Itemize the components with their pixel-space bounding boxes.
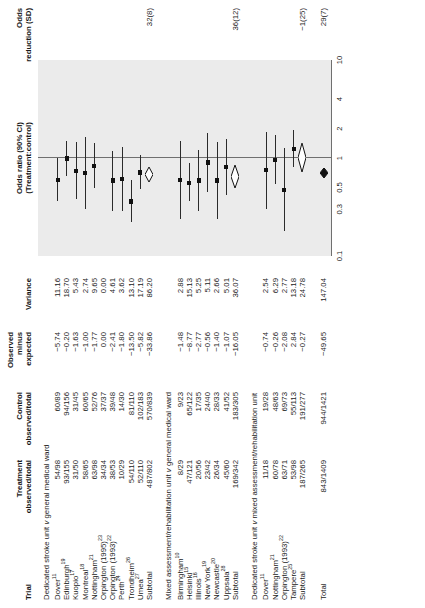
group-heading: Dedicated stroke unit v mixed assessment… — [250, 393, 259, 600]
variance-value: 2.66 — [212, 278, 221, 608]
point-estimate-box — [292, 147, 296, 151]
point-estimate-box — [273, 158, 277, 162]
group-heading: Dedicated stroke unit v general medical … — [42, 444, 51, 600]
variance-value: 4.61 — [108, 278, 117, 608]
variance-value: 17.19 — [136, 278, 145, 608]
point-estimate-box — [92, 164, 96, 168]
plot-panel — [38, 60, 332, 256]
axis-tick-label: 0.3 — [335, 200, 344, 218]
null-line — [38, 157, 332, 158]
variance-value: 13.18 — [289, 278, 298, 608]
point-estimate-box — [129, 199, 133, 203]
point-estimate-box — [282, 188, 286, 192]
point-estimate-box — [197, 178, 201, 182]
axis-tick-label: 1 — [335, 149, 344, 167]
axis-tick-label: 2 — [335, 120, 344, 138]
point-estimate-box — [74, 169, 78, 173]
variance-value: 18.70 — [62, 278, 71, 608]
column-header-odds-reduction: Odds — [15, 8, 24, 608]
column-header-observed-minus-expected: Observed — [6, 332, 15, 608]
variance-value: 2.77 — [280, 278, 289, 608]
point-estimate-box — [224, 165, 228, 169]
summary-diamond — [231, 165, 239, 188]
variance-value: 9.65 — [90, 278, 99, 608]
point-estimate-box — [264, 168, 268, 172]
summary-diamond — [298, 143, 306, 172]
axis-tick-label: 0.5 — [335, 179, 344, 197]
point-estimate-box — [178, 178, 182, 182]
variance-value: 13.10 — [127, 278, 136, 608]
plot-baseline — [331, 60, 332, 256]
point-estimate-box — [120, 177, 124, 181]
summary-diamond — [145, 167, 153, 182]
variance-value: 6.29 — [271, 278, 280, 608]
point-estimate-box — [65, 156, 69, 160]
variance-value: 5.43 — [71, 278, 80, 608]
variance-value: 5.01 — [222, 278, 231, 608]
point-estimate-box — [111, 178, 115, 182]
rotated-figure-wrapper: TrialTreatmentobserved/totalControlobser… — [0, 0, 425, 608]
variance-value: 5.25 — [194, 278, 203, 608]
axis-tick-label: 10 — [335, 51, 344, 69]
axis-tick-label: 4 — [335, 90, 344, 108]
point-estimate-box — [215, 178, 219, 182]
point-estimate-box — [83, 171, 87, 175]
forest-plot-figure: TrialTreatmentobserved/totalControlobser… — [0, 0, 425, 608]
group-heading: Mixed assessment/rehabilitation unit v g… — [164, 392, 173, 600]
point-estimate-box — [138, 171, 142, 175]
summary-diamond-total — [320, 168, 328, 178]
column-header-odds-reduction: reduction (SD) — [24, 8, 33, 608]
point-estimate-box — [206, 160, 210, 164]
variance-value: 15.13 — [185, 278, 194, 608]
variance-value: 0.00 — [99, 278, 108, 608]
point-estimate-box — [56, 178, 60, 182]
point-estimate-box — [187, 181, 191, 185]
axis-tick-label: 0.1 — [335, 247, 344, 265]
variance-value: 2.88 — [176, 278, 185, 608]
